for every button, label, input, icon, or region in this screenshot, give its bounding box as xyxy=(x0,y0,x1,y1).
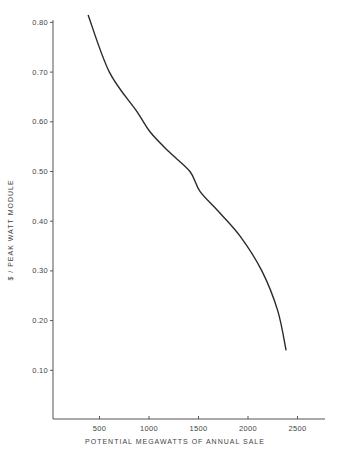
y-axis-ticks: 0.100.200.300.400.500.600.700.80 xyxy=(32,18,53,375)
y-tick-label: 0.60 xyxy=(32,117,48,126)
x-tick-label: 1500 xyxy=(190,424,208,433)
y-tick-label: 0.30 xyxy=(32,266,48,275)
y-tick-label: 0.40 xyxy=(32,217,48,226)
y-tick-label: 0.50 xyxy=(32,167,48,176)
x-tick-label: 1000 xyxy=(140,424,158,433)
y-tick-label: 0.10 xyxy=(32,366,48,375)
data-line xyxy=(88,15,286,350)
x-tick-label: 2000 xyxy=(239,424,257,433)
y-tick-label: 0.20 xyxy=(32,316,48,325)
axes xyxy=(53,20,325,419)
y-tick-label: 0.70 xyxy=(32,68,48,77)
x-tick-label: 500 xyxy=(93,424,106,433)
y-axis-title: $ / PEAK WATT MODULE xyxy=(7,179,14,280)
x-axis-title: POTENTIAL MEGAWATTS OF ANNUAL SALE xyxy=(85,438,265,445)
x-tick-label: 2500 xyxy=(289,424,307,433)
y-tick-label: 0.80 xyxy=(32,18,48,27)
chart: 0.100.200.300.400.500.600.700.80 5001000… xyxy=(0,0,337,455)
